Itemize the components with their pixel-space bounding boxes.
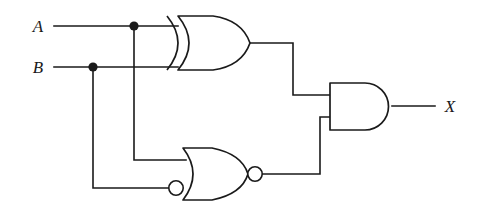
- nor-gate-body: [183, 148, 248, 200]
- nor-gate-input-bubble-lower: [169, 181, 183, 195]
- wire-b-to-nor: [93, 67, 169, 188]
- nor-gate-output-bubble: [248, 167, 262, 181]
- gate-and: [330, 83, 388, 130]
- junction-dot-a: [129, 21, 138, 30]
- xor-gate-extra-arc: [167, 16, 178, 70]
- input-label-a: A: [32, 17, 44, 36]
- input-label-b: B: [33, 58, 44, 77]
- gate-xor: [167, 16, 250, 70]
- output-label-x: X: [444, 97, 456, 116]
- wire-xor-to-and: [250, 43, 330, 95]
- junction-dot-b: [88, 62, 97, 71]
- circuit-canvas: A B X: [0, 0, 488, 216]
- wire-nor-to-and: [262, 117, 330, 174]
- logic-circuit-diagram: A B X: [0, 0, 488, 216]
- and-gate-body: [330, 83, 388, 130]
- xor-gate-body: [178, 16, 250, 70]
- gate-nor: [169, 148, 262, 200]
- junction-group: [88, 21, 138, 71]
